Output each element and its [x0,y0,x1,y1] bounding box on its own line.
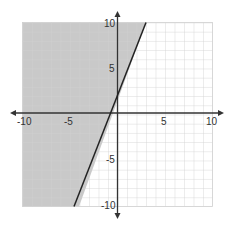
y-tick-neg10: -10 [101,200,116,211]
x-tick-10: 10 [206,116,218,127]
y-tick-10: 10 [104,18,116,29]
y-tick-5: 5 [109,63,115,74]
x-axis-arrow-left [10,110,16,116]
y-axis-arrow-up [115,11,121,17]
x-axis-arrow-right [218,110,224,116]
x-tick-neg5: -5 [64,116,73,127]
y-tick-neg5: -5 [106,154,115,165]
graph: -10 -5 5 10 10 5 -5 -10 [0,0,233,231]
y-axis-arrow-down [115,213,121,219]
x-tick-5: 5 [161,116,167,127]
x-tick-neg10: -10 [17,116,32,127]
